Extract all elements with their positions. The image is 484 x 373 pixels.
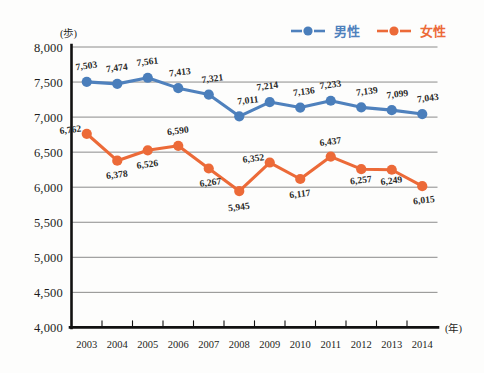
data-label-male: 7,321 [201, 71, 224, 85]
data-point-male [295, 102, 305, 112]
x-axis-unit-label: (年) [445, 322, 462, 335]
data-point-female [204, 163, 214, 173]
data-label-male: 7,233 [319, 77, 342, 91]
x-axis-tick-label: 2009 [259, 339, 280, 350]
x-axis-tick-label: 2005 [137, 339, 158, 350]
data-point-male [417, 109, 427, 119]
data-point-male [265, 97, 275, 107]
y-axis-tick-label: 6,500 [34, 146, 63, 160]
data-point-female [265, 157, 275, 167]
legend-marker-dot-female [389, 26, 398, 35]
data-point-male [173, 83, 183, 93]
data-point-male [387, 105, 397, 115]
x-axis-tick-label: 2008 [229, 339, 250, 350]
data-label-female: 5,945 [227, 200, 250, 214]
chart-legend: 男性 女性 [291, 24, 446, 39]
x-axis-tick-label: 2007 [198, 339, 219, 350]
legend-label-female[interactable]: 女性 [420, 24, 446, 39]
x-axis-tick-label: 2012 [351, 339, 372, 350]
data-point-female [234, 186, 244, 196]
y-axis-unit-label: (歩) [60, 27, 77, 40]
data-label-male: 7,214 [256, 79, 279, 93]
data-label-male: 7,043 [416, 91, 439, 105]
data-label-female: 6,249 [380, 173, 403, 187]
data-label-female: 6,352 [242, 151, 265, 165]
data-label-female: 6,378 [105, 167, 128, 181]
data-label-male: 7,011 [237, 93, 259, 107]
data-label-female: 6,526 [136, 157, 159, 171]
data-label-male: 7,413 [168, 65, 191, 79]
data-label-male: 7,503 [75, 59, 98, 73]
y-axis-tick-label: 8,000 [34, 41, 63, 55]
y-axis-tick-label: 7,000 [34, 111, 63, 125]
data-point-female [82, 129, 92, 139]
data-label-female: 6,257 [349, 173, 372, 187]
legend-marker-dot-male [303, 26, 312, 35]
data-point-female [173, 141, 183, 151]
y-axis-tick-labels: 8,0007,5007,0006,5006,0005,5005,0004,500… [34, 41, 63, 335]
data-label-male: 7,139 [355, 84, 378, 98]
x-axis-tick-label: 2004 [107, 339, 129, 350]
chart-canvas: 8,0007,5007,0006,5006,0005,5005,0004,500… [0, 0, 484, 373]
data-point-male [356, 102, 366, 112]
data-point-male [326, 96, 336, 106]
data-label-male: 7,474 [105, 61, 128, 75]
legend-label-male[interactable]: 男性 [334, 24, 360, 39]
x-axis-tick-labels: 2003200420052006200720082009201020112012… [76, 339, 433, 350]
y-axis-tick-label: 7,500 [34, 76, 63, 90]
data-label-female: 6,117 [289, 187, 311, 201]
data-label-female: 6,762 [59, 123, 82, 137]
data-point-female [326, 151, 336, 161]
data-label-male: 7,561 [136, 55, 159, 69]
y-axis-tick-label: 6,000 [34, 181, 63, 195]
y-axis-tick-label: 4,500 [34, 286, 63, 300]
data-point-female [417, 181, 427, 191]
y-axis-tick-label: 5,000 [34, 251, 63, 265]
data-point-male [143, 73, 153, 83]
x-axis-tick-label: 2014 [412, 339, 434, 350]
data-point-male [112, 79, 122, 89]
line-chart-figure: 8,0007,5007,0006,5006,0005,5005,0004,500… [0, 0, 484, 373]
y-axis-tick-label: 5,500 [34, 216, 63, 230]
data-point-labels: 7,5037,4747,5617,4137,3217,0117,2147,136… [59, 55, 439, 214]
data-point-male [82, 77, 92, 87]
x-axis-tick-label: 2013 [381, 339, 402, 350]
x-axis-tick-label: 2011 [320, 339, 341, 350]
data-point-female [112, 156, 122, 166]
data-point-female [143, 145, 153, 155]
x-axis-tick-label: 2006 [168, 339, 189, 350]
data-label-male: 7,136 [292, 84, 315, 98]
data-label-female: 6,590 [166, 124, 189, 138]
x-axis-tick-label: 2010 [290, 339, 311, 350]
data-label-female: 6,437 [319, 134, 342, 148]
data-label-female: 6,015 [412, 193, 435, 207]
data-point-female [295, 174, 305, 184]
data-point-male [204, 89, 214, 99]
y-axis-tick-label: 4,000 [34, 321, 63, 335]
x-axis-tick-label: 2003 [76, 339, 97, 350]
data-point-male [234, 111, 244, 121]
data-label-male: 7,099 [386, 87, 409, 101]
data-label-female: 6,267 [199, 175, 222, 189]
